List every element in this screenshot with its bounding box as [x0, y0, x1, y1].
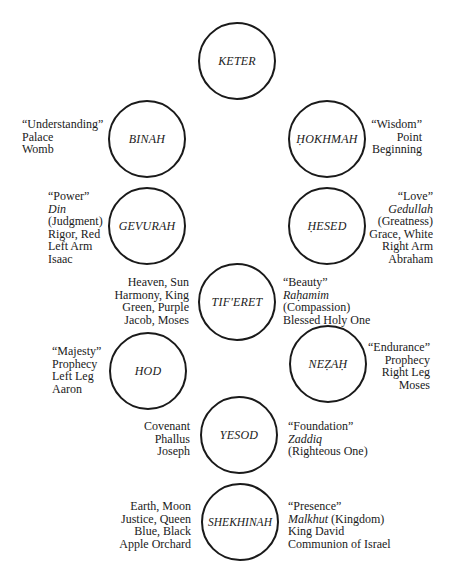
attr-line: “Majesty” [52, 345, 101, 358]
attr-line: Blue, Black [119, 525, 191, 538]
node-label-hokhmah: ḤOKHMAH [296, 132, 357, 147]
node-label-shekhinah: SHEKHINAH [208, 516, 272, 528]
attr-line: Apple Orchard [119, 538, 191, 551]
sefirah-shekhinah: SHEKHINAH [201, 483, 279, 561]
sefirah-tiferet: TIF'ERET [198, 263, 276, 341]
attr-line: “Love” [369, 190, 433, 203]
binah-attributes: “Understanding” Palace Womb [22, 118, 103, 156]
attr-line: (Righteous One) [288, 445, 368, 458]
sefirah-nezah: NEẒAḤ [289, 325, 367, 403]
attr-line: Left Leg [52, 370, 101, 383]
node-label-gevurah: GEVURAH [119, 219, 176, 234]
node-label-yesod: YESOD [220, 428, 258, 443]
tiferet-left-attributes: Heaven, Sun Harmony, King Green, Purple … [114, 276, 189, 326]
attr-line: Heaven, Sun [114, 276, 189, 289]
attr-line: “Power” [48, 190, 103, 203]
attr-line: Jacob, Moses [114, 314, 189, 327]
node-label-tiferet: TIF'ERET [212, 295, 263, 310]
node-label-keter: KETER [218, 54, 256, 69]
sefirah-binah: BINAH [108, 100, 186, 178]
yesod-left-attributes: Covenant Phallus Joseph [144, 420, 190, 458]
attr-line: Communion of Israel [288, 538, 391, 551]
attr-line: “Wisdom” [371, 118, 422, 131]
shekhinah-left-attributes: Earth, Moon Justice, Queen Blue, Black A… [119, 500, 191, 550]
node-label-nezah: NEẒAḤ [308, 357, 347, 372]
attr-line: Earth, Moon [119, 500, 191, 513]
attr-line: Womb [22, 143, 103, 156]
attr-line: Isaac [48, 253, 103, 266]
yesod-right-attributes: “Foundation” Zaddiq (Righteous One) [288, 420, 368, 458]
node-label-binah: BINAH [129, 132, 165, 147]
attr-line: (Compassion) [283, 301, 370, 314]
attr-line: King David [288, 525, 391, 538]
node-label-hesed: ḤESED [308, 219, 347, 234]
sefirah-hesed: ḤESED [288, 187, 366, 265]
attr-line: Green, Purple [114, 301, 189, 314]
sefirah-keter: KETER [198, 22, 276, 100]
attr-line: Covenant [144, 420, 190, 433]
attr-line: Moses [368, 379, 430, 392]
attr-line: “Beauty” [283, 276, 370, 289]
hokhmah-attributes: “Wisdom” Point Beginning [371, 118, 422, 156]
hod-attributes: “Majesty” Prophecy Left Leg Aaron [52, 345, 101, 395]
sefirah-hod: HOD [109, 332, 187, 410]
attr-line: “Foundation” [288, 420, 368, 433]
attr-line: Abraham [369, 253, 433, 266]
hesed-attributes: “Love” Gedullah (Greatness) Grace, White… [369, 190, 433, 266]
tiferet-right-attributes: “Beauty” Raḥamim (Compassion) Blessed Ho… [283, 276, 370, 326]
gevurah-attributes: “Power” Din (Judgment) Rigor, Red Left A… [48, 190, 103, 266]
nezah-attributes: “Endurance” Prophecy Right Leg Moses [368, 341, 430, 391]
sefirah-yesod: YESOD [200, 396, 278, 474]
attr-line: Right Leg [368, 366, 430, 379]
sefirah-gevurah: GEVURAH [108, 187, 186, 265]
attr-line: Joseph [144, 445, 190, 458]
attr-line: Blessed Holy One [283, 314, 370, 327]
attr-line: (Judgment) [48, 215, 103, 228]
shekhinah-right-attributes: “Presence” Malkhut (Kingdom) King David … [288, 500, 391, 550]
attr-line: (Greatness) [369, 215, 433, 228]
attr-line: Aaron [52, 383, 101, 396]
sefirah-hokhmah: ḤOKHMAH [288, 100, 366, 178]
attr-line: Beginning [371, 143, 422, 156]
attr-line: “Endurance” [368, 341, 430, 354]
attr-line: “Understanding” [22, 118, 103, 131]
node-label-hod: HOD [135, 364, 162, 379]
